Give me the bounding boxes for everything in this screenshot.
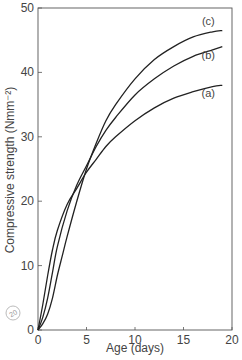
y-tick-label: 0: [27, 323, 34, 337]
curve-a: [38, 85, 222, 330]
stamp-icon: 20: [6, 306, 20, 320]
series-label-c: (c): [202, 15, 215, 27]
x-tick-label: 5: [83, 333, 90, 347]
y-tick-label: 30: [21, 130, 35, 144]
series-label-a: (a): [202, 87, 215, 99]
curves: [38, 31, 222, 330]
y-tick-label: 10: [21, 259, 35, 273]
series-labels: (a)(b)(c): [202, 15, 215, 100]
y-tick-label: 20: [21, 194, 35, 208]
y-tick-label: 40: [21, 65, 35, 79]
x-tick-label: 0: [35, 333, 42, 347]
stamp-label: 20: [8, 308, 18, 318]
x-axis-label: Age (days): [106, 341, 164, 355]
series-label-b: (b): [202, 49, 215, 61]
x-tick-label: 15: [177, 333, 191, 347]
x-tick-label: 20: [225, 333, 239, 347]
y-axis-label: Compressive strength (Nmm⁻²): [3, 87, 17, 254]
y-tick-label: 50: [21, 1, 35, 15]
chart: 0510152001020304050 (a)(b)(c) Age (days)…: [0, 0, 242, 360]
curve-b: [38, 47, 222, 330]
curve-c: [38, 31, 222, 330]
